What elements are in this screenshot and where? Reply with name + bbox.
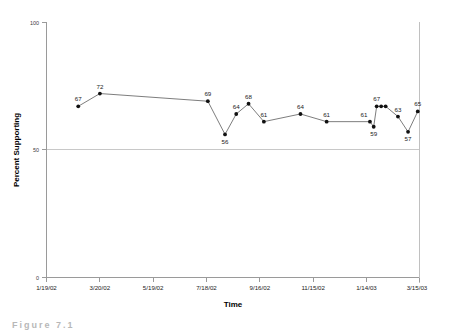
x-tick-label-2: 5/19/02 xyxy=(143,284,164,291)
y-tick-label-50: 50 xyxy=(33,147,39,153)
y-axis-title: Percent Supporting xyxy=(12,113,21,187)
data-point xyxy=(384,104,388,108)
data-point xyxy=(247,102,251,106)
x-tick-label-6: 1/14/03 xyxy=(356,284,377,291)
data-point xyxy=(416,110,420,114)
x-tick-label-7: 3/15/03 xyxy=(407,284,428,291)
data-point xyxy=(375,104,379,108)
y-tick-label-0: 0 xyxy=(36,275,39,281)
data-point xyxy=(206,99,210,103)
x-tick-label-4: 9/16/02 xyxy=(249,284,270,291)
data-point xyxy=(299,112,303,116)
data-point-label: 61 xyxy=(323,111,330,118)
data-point-label: 56 xyxy=(222,138,229,145)
data-point xyxy=(379,104,383,108)
data-point xyxy=(98,92,102,96)
data-point xyxy=(372,125,376,129)
y-tick-label-100: 100 xyxy=(30,20,39,26)
data-point-label: 61 xyxy=(260,111,267,118)
data-point-label: 64 xyxy=(233,103,240,110)
data-point xyxy=(223,133,227,137)
data-point-label: 65 xyxy=(414,100,421,107)
data-point-label: 63 xyxy=(395,106,402,113)
data-point-label: 68 xyxy=(245,93,252,100)
data-point xyxy=(406,130,410,134)
data-point xyxy=(368,120,372,124)
data-point-label: 69 xyxy=(204,90,211,97)
x-tick-label-0: 1/19/02 xyxy=(36,284,57,291)
data-point-label: 57 xyxy=(405,135,412,142)
x-tick-label-1: 3/20/02 xyxy=(89,284,110,291)
x-tick-label-5: 11/15/02 xyxy=(301,284,325,291)
data-point-label: 61 xyxy=(361,111,368,118)
x-axis-title: Time xyxy=(224,300,243,309)
data-point-label: 72 xyxy=(96,83,103,90)
data-point xyxy=(325,120,329,124)
data-point-label: 67 xyxy=(373,95,380,102)
series-point-labels: 677269566468616461615967635765 xyxy=(75,83,422,145)
series-group: 677269566468616461615967635765 xyxy=(75,83,422,145)
data-point xyxy=(76,104,80,108)
data-point xyxy=(396,115,400,119)
data-point xyxy=(234,112,238,116)
data-point-label: 67 xyxy=(75,95,82,102)
figure-caption: Figure 7.1 xyxy=(12,320,75,330)
data-point-label: 64 xyxy=(297,103,304,110)
x-tick-label-3: 7/18/02 xyxy=(196,284,217,291)
data-point-label: 59 xyxy=(370,130,377,137)
data-point xyxy=(262,120,266,124)
